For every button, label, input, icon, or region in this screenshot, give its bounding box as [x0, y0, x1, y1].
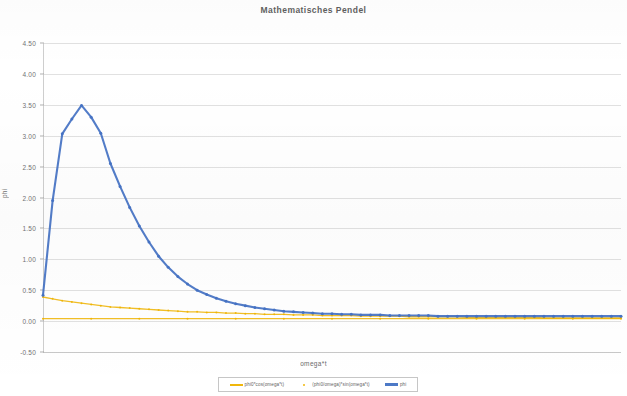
- series-marker: [186, 283, 189, 286]
- chart-container: Mathematisches Pendel phi 4.504.003.503.…: [0, 0, 627, 396]
- series-marker: [514, 315, 517, 318]
- series-marker: [398, 314, 401, 317]
- series-marker: [283, 318, 285, 320]
- series-marker: [119, 307, 121, 309]
- series-marker: [100, 305, 102, 307]
- series-marker: [475, 315, 478, 318]
- legend-swatch-icon: [230, 384, 243, 386]
- series-marker: [620, 318, 622, 320]
- series-marker: [215, 297, 218, 300]
- y-axis-tick-label: 4.00: [4, 70, 36, 77]
- series-marker: [427, 314, 430, 317]
- series-marker: [81, 302, 83, 304]
- series-marker: [581, 315, 584, 318]
- series-marker: [273, 313, 275, 315]
- series-marker: [148, 308, 150, 310]
- series-marker: [571, 315, 574, 318]
- series-marker: [350, 313, 353, 316]
- series-marker: [158, 309, 160, 311]
- series-marker: [465, 315, 468, 318]
- series-marker: [369, 313, 372, 316]
- legend-label: (phi0/omega)*sin(omega*t): [312, 382, 369, 387]
- series-marker: [408, 314, 411, 317]
- series-marker: [52, 298, 54, 300]
- series-marker: [523, 315, 526, 318]
- series-marker: [177, 310, 179, 312]
- series-marker: [196, 311, 198, 313]
- series-marker: [196, 289, 199, 292]
- legend-swatch-icon: [299, 384, 310, 385]
- legend-item[interactable]: phi: [385, 382, 406, 387]
- y-axis-tick-label: 2.00: [4, 194, 36, 201]
- series-marker: [205, 293, 208, 296]
- series-marker: [610, 315, 613, 318]
- series-marker: [234, 302, 237, 305]
- series-marker: [61, 132, 64, 135]
- y-axis-tick-label: 0.00: [4, 318, 36, 325]
- series-marker: [504, 315, 507, 318]
- series-marker: [379, 318, 381, 320]
- series-marker: [147, 241, 150, 244]
- series-marker: [51, 199, 54, 202]
- series-marker: [215, 311, 217, 313]
- gridline: [43, 352, 621, 353]
- y-axis-tick-label: 3.50: [4, 101, 36, 108]
- series-marker: [138, 318, 140, 320]
- series-marker: [187, 318, 189, 320]
- series-marker: [379, 313, 382, 316]
- series-line: [43, 105, 621, 316]
- series-marker: [90, 303, 92, 305]
- series-marker: [388, 314, 391, 317]
- series-marker: [427, 318, 429, 320]
- y-axis-tick-label: 4.50: [4, 40, 36, 47]
- series-marker: [282, 310, 285, 313]
- series-marker: [235, 312, 237, 314]
- series-marker: [225, 312, 227, 314]
- y-axis-tick-label: 0.50: [4, 287, 36, 294]
- series-marker: [485, 315, 488, 318]
- plot-area: [43, 43, 621, 352]
- series-marker: [562, 315, 565, 318]
- series-marker: [456, 315, 459, 318]
- series-marker: [331, 318, 333, 320]
- series-marker: [311, 312, 314, 315]
- series-marker: [99, 132, 102, 135]
- series-marker: [340, 313, 343, 316]
- legend-swatch-icon: [385, 383, 398, 385]
- legend-item[interactable]: (phi0/omega)*sin(omega*t): [299, 382, 369, 387]
- series-marker: [42, 294, 45, 297]
- series-marker: [542, 315, 545, 318]
- series-marker: [225, 300, 228, 303]
- series-marker: [600, 315, 603, 318]
- y-axis-tick-label: -0.50: [4, 349, 36, 356]
- series-marker: [264, 313, 266, 315]
- series-marker: [417, 314, 420, 317]
- series-marker: [302, 311, 305, 314]
- series-marker: [90, 318, 92, 320]
- series-marker: [109, 162, 112, 165]
- series-marker: [620, 315, 623, 318]
- series-marker: [42, 318, 44, 320]
- series-marker: [80, 104, 83, 107]
- series-marker: [176, 275, 179, 278]
- series-marker: [244, 313, 246, 315]
- series-layer: [43, 43, 621, 352]
- series-marker: [321, 312, 324, 315]
- series-marker: [138, 308, 140, 310]
- series-marker: [359, 313, 362, 316]
- series-marker: [206, 311, 208, 313]
- series-marker: [235, 318, 237, 320]
- series-marker: [263, 307, 266, 310]
- series-marker: [138, 224, 141, 227]
- legend-item[interactable]: phi0*cos(omega*t): [230, 382, 285, 387]
- series-marker: [524, 318, 526, 320]
- series-marker: [533, 315, 536, 318]
- y-axis-tick-label: 1.00: [4, 256, 36, 263]
- legend-label: phi0*cos(omega*t): [245, 382, 285, 387]
- series-marker: [157, 255, 160, 258]
- series-marker: [109, 306, 111, 308]
- y-axis-tick-label: 2.50: [4, 163, 36, 170]
- series-marker: [61, 300, 63, 302]
- series-marker: [119, 185, 122, 188]
- series-marker: [446, 315, 449, 318]
